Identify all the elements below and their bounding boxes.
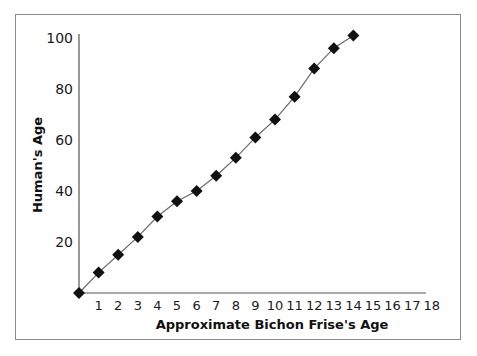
- x-tick-label: 9: [251, 298, 259, 313]
- x-tick-label: 14: [345, 298, 362, 313]
- x-tick-label: 4: [153, 298, 161, 313]
- x-tick-label: 15: [365, 298, 382, 313]
- x-tick-label: 12: [306, 298, 323, 313]
- x-tick-label: 8: [232, 298, 240, 313]
- x-tick-label: 3: [134, 298, 142, 313]
- x-axis-ticks: 123456789101112131415161718: [94, 298, 440, 313]
- y-tick-label: 100: [46, 30, 73, 46]
- x-tick-label: 11: [286, 298, 303, 313]
- x-tick-label: 1: [94, 298, 102, 313]
- x-tick-label: 18: [424, 298, 441, 313]
- y-tick-label: 20: [55, 234, 73, 250]
- x-tick-label: 6: [192, 298, 200, 313]
- x-tick-label: 2: [114, 298, 122, 313]
- x-tick-label: 17: [404, 298, 421, 313]
- x-tick-label: 10: [267, 298, 284, 313]
- data-markers: [73, 29, 359, 299]
- y-axis-ticks: 20406080100: [46, 30, 73, 250]
- x-tick-label: 16: [384, 298, 401, 313]
- axes: [79, 34, 426, 293]
- y-axis-label: Human's Age: [30, 117, 45, 213]
- y-tick-label: 60: [55, 132, 73, 148]
- x-axis-label: Approximate Bichon Frise's Age: [156, 317, 389, 332]
- x-tick-label: 7: [212, 298, 220, 313]
- y-tick-label: 80: [55, 81, 73, 97]
- x-tick-label: 5: [173, 298, 181, 313]
- x-tick-label: 13: [326, 298, 343, 313]
- data-point-marker: [191, 185, 203, 197]
- data-point-marker: [171, 195, 183, 207]
- line-chart: 20406080100 123456789101112131415161718 …: [0, 0, 477, 356]
- data-point-marker: [347, 29, 359, 41]
- y-tick-label: 40: [55, 183, 73, 199]
